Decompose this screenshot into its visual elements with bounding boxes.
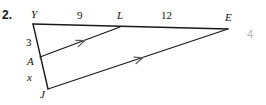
segment-AL	[40, 27, 120, 57]
measure-label-yl: 9	[77, 10, 83, 21]
segment-JE	[48, 29, 228, 89]
problem-number: 2.	[2, 9, 12, 21]
vertex-label-j: J	[40, 89, 45, 100]
vertex-label-a: A	[27, 56, 34, 67]
measure-label-aj: x	[27, 72, 32, 83]
geometry-figure: 2. Y L E A J 9 12 3 x 4	[0, 0, 266, 105]
segment-YE	[33, 24, 228, 29]
measure-label-le: 12	[161, 10, 172, 21]
measure-label-ya: 3	[26, 37, 32, 48]
vertex-label-e: E	[225, 12, 232, 23]
vertex-label-l: L	[117, 10, 123, 21]
vertex-label-y: Y	[31, 9, 37, 20]
page-number: 4	[247, 29, 253, 40]
